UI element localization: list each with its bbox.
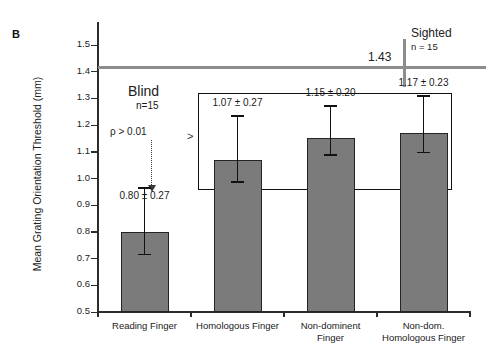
x-tick (190, 311, 191, 317)
sighted-reference-line (98, 66, 486, 69)
error-bar-stem (330, 105, 332, 154)
x-axis-label: Non-dom. Homologous Finger (369, 320, 479, 344)
y-tick (91, 71, 98, 72)
bar-value-label: 1.07 ± 0.27 (178, 97, 298, 108)
y-axis-title: Mean Grating Orientation Threshold (mm) (31, 59, 43, 289)
sighted-group-n: n = 15 (411, 41, 438, 52)
y-tick-label: 0.8 (62, 225, 90, 236)
x-tick (376, 311, 377, 317)
y-tick (91, 205, 98, 206)
error-bar-cap-top (138, 187, 151, 189)
y-tick-label: 0.5 (62, 305, 90, 316)
error-bar-cap-top (417, 95, 430, 97)
y-tick (91, 151, 98, 152)
y-tick (91, 125, 98, 126)
y-tick-label: 1.1 (62, 145, 90, 156)
bar (400, 133, 448, 312)
y-tick-label: 0.6 (62, 278, 90, 289)
error-bar-cap-bottom (138, 254, 151, 256)
y-tick-label: 1.4 (62, 65, 90, 76)
y-tick (91, 231, 98, 232)
error-bar-cap-bottom (231, 181, 244, 183)
bar-value-label: 0.80 ± 0.27 (85, 190, 205, 201)
x-tick (283, 311, 284, 317)
y-tick-label: 1.0 (62, 172, 90, 183)
bar-value-label: 1.15 ± 0.20 (271, 87, 391, 98)
y-tick (91, 98, 98, 99)
error-bar-stem (237, 115, 239, 181)
error-bar-cap-top (324, 105, 337, 107)
annotation-arrow-line (151, 140, 152, 187)
reference-line-value-label: 1.43 (366, 50, 393, 64)
y-tick-label: 0.7 (62, 252, 90, 263)
y-tick-label: 1.5 (62, 38, 90, 49)
figure-panel: B Mean Grating Orientation Threshold (mm… (0, 0, 490, 359)
sighted-group-label: Sighted (411, 26, 452, 40)
x-tick (97, 311, 98, 317)
bar-value-label: 1.17 ± 0.23 (364, 77, 484, 88)
x-tick (469, 311, 470, 317)
blind-group-n: n=15 (136, 100, 159, 111)
bar (307, 138, 355, 312)
y-tick-label: 1.3 (62, 91, 90, 102)
error-bar-cap-bottom (417, 152, 430, 154)
error-bar-cap-bottom (324, 154, 337, 156)
significance-annotation: ρ > 0.01 (110, 126, 147, 137)
y-tick (91, 178, 98, 179)
comparison-symbol: > (187, 130, 193, 142)
y-tick-label: 1.2 (62, 118, 90, 129)
y-tick (91, 258, 98, 259)
error-bar-cap-top (231, 115, 244, 117)
y-tick (91, 45, 98, 46)
y-tick (91, 285, 98, 286)
blind-group-label: Blind (128, 83, 159, 99)
error-bar-stem (423, 95, 425, 151)
panel-label: B (12, 28, 20, 40)
